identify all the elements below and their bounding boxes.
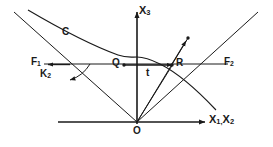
- label-point-q: Q: [112, 58, 120, 68]
- hyperbola-curve-c: [28, 10, 216, 110]
- label-origin-o: O: [133, 126, 141, 136]
- label-point-r: R: [176, 58, 183, 68]
- label-focus-f1: F1: [31, 57, 41, 68]
- label-curve-c: C: [62, 27, 69, 37]
- label-axis-x3: X3: [139, 5, 151, 17]
- point-q-dot: [122, 63, 125, 66]
- label-focus-f2: F2: [224, 57, 234, 68]
- ray-origin-to-r: [137, 64, 173, 122]
- geometry-figure: X3 X1,X2 C F1 K2 F2 Q t R O: [0, 0, 273, 147]
- label-k2: K2: [40, 69, 51, 80]
- label-axis-x1-x2: X1,X2: [209, 114, 234, 126]
- label-segment-t: t: [146, 68, 149, 78]
- asymptote-right: [137, 12, 258, 122]
